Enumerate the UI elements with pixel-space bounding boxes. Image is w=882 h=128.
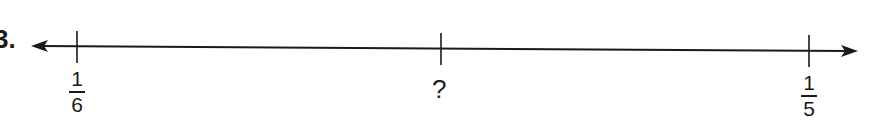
number-line-figure: 3. 1 6 ? 1 5	[0, 0, 882, 128]
numerator: 1	[71, 68, 83, 90]
number-line	[0, 0, 882, 128]
axis-line	[40, 46, 848, 51]
label-unknown: ?	[432, 76, 446, 102]
denominator: 5	[803, 98, 815, 120]
label-one-sixth: 1 6	[67, 68, 87, 116]
numerator: 1	[803, 72, 815, 94]
denominator: 6	[71, 94, 83, 116]
label-one-fifth: 1 5	[799, 72, 819, 120]
